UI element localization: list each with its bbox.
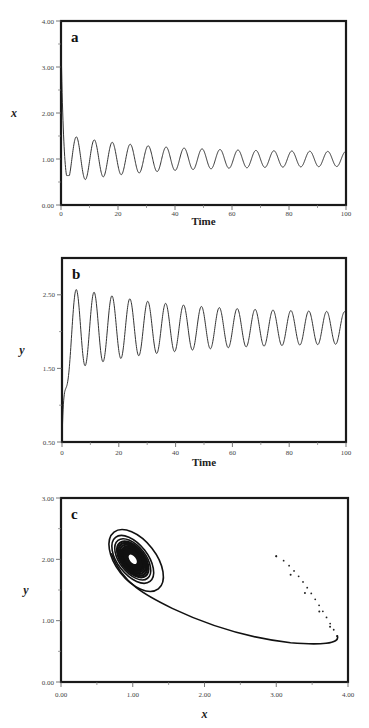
trajectory-dot bbox=[322, 610, 324, 612]
trajectory-dot bbox=[304, 592, 306, 594]
chart-panel-c: 0.001.002.003.000.001.002.003.004.00xyc bbox=[21, 495, 354, 722]
trajectory-dot bbox=[290, 574, 292, 576]
x-tick-label: 100 bbox=[341, 449, 352, 457]
panel-letter: a bbox=[71, 29, 79, 45]
x-axis-label: x bbox=[201, 707, 208, 721]
data-line bbox=[61, 39, 346, 179]
y-tick-label: 1.50 bbox=[43, 365, 56, 373]
figure: 0.001.002.003.004.00020406080100Timexa0.… bbox=[0, 0, 369, 728]
trajectory-dot bbox=[293, 570, 295, 572]
trajectory-dot bbox=[302, 581, 304, 583]
trajectory-dot bbox=[314, 598, 316, 600]
plot-frame bbox=[62, 258, 346, 442]
trajectory-dot bbox=[306, 587, 308, 589]
y-tick-label: 2.00 bbox=[42, 110, 55, 118]
x-tick-label: 0 bbox=[59, 210, 63, 218]
x-tick-label: 100 bbox=[341, 210, 352, 218]
y-axis-label: x bbox=[10, 106, 17, 120]
trajectory-dot bbox=[298, 575, 300, 577]
plot-frame bbox=[61, 21, 346, 205]
trajectory-dot bbox=[310, 593, 312, 595]
x-axis-label: Time bbox=[191, 215, 215, 227]
y-tick-label: 2.50 bbox=[43, 291, 56, 299]
trajectory-dot bbox=[275, 555, 277, 557]
x-axis-label: Time bbox=[192, 456, 216, 468]
x-tick-label: 60 bbox=[229, 210, 237, 218]
y-tick-label: 0.00 bbox=[42, 202, 55, 210]
x-tick-label: 4.00 bbox=[342, 691, 355, 699]
trajectory-dot bbox=[283, 560, 285, 562]
panel-letter: c bbox=[71, 506, 78, 522]
x-tick-label: 80 bbox=[286, 449, 294, 457]
plot-frame bbox=[61, 498, 348, 682]
y-axis-label: y bbox=[21, 583, 29, 597]
y-tick-label: 3.00 bbox=[42, 495, 55, 503]
y-tick-label: 3.00 bbox=[42, 64, 55, 72]
x-tick-label: 40 bbox=[172, 449, 180, 457]
trajectory-dot bbox=[326, 617, 328, 619]
trajectory-dot bbox=[329, 626, 331, 628]
x-tick-label: 20 bbox=[115, 210, 123, 218]
chart-panel-a: 0.001.002.003.004.00020406080100Timexa bbox=[10, 18, 352, 228]
trajectory-dot bbox=[318, 604, 320, 606]
y-tick-label: 0.50 bbox=[43, 439, 56, 447]
trajectory-dot bbox=[329, 623, 331, 625]
x-tick-label: 2.00 bbox=[198, 691, 211, 699]
panel-letter: b bbox=[72, 266, 80, 282]
x-tick-label: 3.00 bbox=[270, 691, 283, 699]
y-tick-label: 0.00 bbox=[42, 679, 55, 687]
x-tick-label: 20 bbox=[115, 449, 123, 457]
x-tick-label: 80 bbox=[286, 210, 294, 218]
trajectory-dot bbox=[288, 565, 290, 567]
x-tick-label: 0.00 bbox=[55, 691, 68, 699]
x-tick-label: 40 bbox=[172, 210, 180, 218]
y-tick-label: 1.00 bbox=[42, 156, 55, 164]
x-tick-label: 1.00 bbox=[127, 691, 140, 699]
trajectory-dot bbox=[318, 610, 320, 612]
y-tick-label: 2.00 bbox=[42, 556, 55, 564]
chart-panel-b: 0.501.502.50020406080100Timeyb bbox=[17, 258, 351, 468]
y-axis-label: y bbox=[17, 343, 25, 357]
y-tick-label: 1.00 bbox=[42, 617, 55, 625]
x-tick-label: 60 bbox=[229, 449, 237, 457]
y-tick-label: 4.00 bbox=[42, 18, 55, 26]
trajectory-dot bbox=[333, 629, 335, 631]
data-line bbox=[62, 290, 346, 442]
x-tick-label: 0 bbox=[60, 449, 64, 457]
